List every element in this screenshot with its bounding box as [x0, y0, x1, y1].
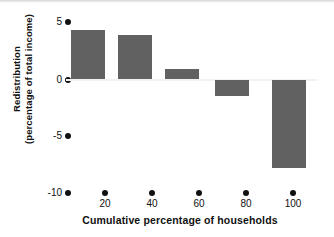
bar-80: [215, 80, 249, 96]
x-tick-dot-60: [196, 190, 202, 196]
bar-100: [272, 80, 306, 168]
plot-area: [71, 15, 317, 195]
x-tick-label-20: 20: [90, 198, 120, 209]
chart-figure: Redistribution (percentage of total inco…: [0, 0, 334, 237]
x-tick-dot-100: [290, 190, 296, 196]
x-tick-dot-40: [149, 190, 155, 196]
y-axis-title-line-2: (percentage of total income): [23, 0, 35, 159]
y-tick-label-0: 0: [40, 74, 62, 85]
x-tick-dot-20: [102, 190, 108, 196]
y-tick-label-5: 5: [40, 16, 62, 27]
bar-60: [165, 69, 199, 79]
bar-40: [118, 35, 152, 79]
x-axis-title: Cumulative percentage of households: [40, 214, 320, 226]
bar-20: [71, 30, 105, 79]
y-axis-title-line-1: Redistribution: [11, 0, 23, 159]
x-tick-label-60: 60: [184, 198, 214, 209]
scan-top-edge: [0, 0, 334, 3]
x-tick-label-80: 80: [231, 198, 261, 209]
x-tick-label-100: 100: [278, 198, 308, 209]
y-tick-label-neg10: -10: [33, 187, 62, 198]
x-tick-dot-80: [243, 190, 249, 196]
y-tick-label-neg5: -5: [36, 130, 62, 141]
x-tick-label-40: 40: [137, 198, 167, 209]
